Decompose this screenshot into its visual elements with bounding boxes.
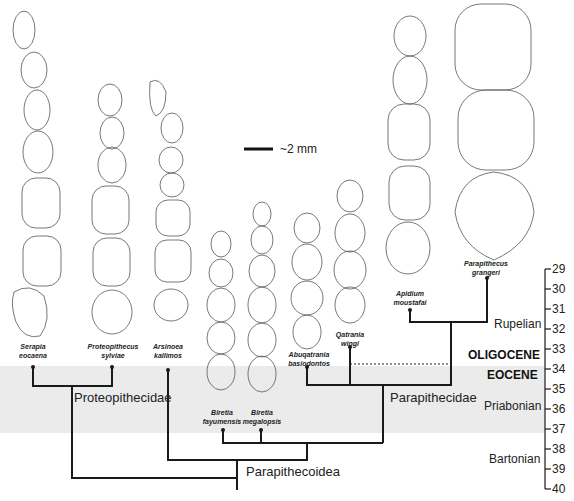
clade-label-parapithecoidea: Parapithecoidea bbox=[246, 464, 340, 479]
tooth-row-parapithecus bbox=[455, 4, 534, 260]
axis-tick-36: 36 bbox=[552, 402, 565, 416]
tooth-row-abuqatrania bbox=[291, 213, 323, 349]
axis-tick-40: 40 bbox=[552, 482, 565, 496]
taxon-label-serapia: Serapia eocaena bbox=[19, 342, 47, 360]
tooth-drawings bbox=[12, 4, 534, 392]
species: wingi bbox=[336, 339, 364, 348]
species: eocaena bbox=[19, 351, 47, 360]
genus: Biretia bbox=[243, 408, 282, 417]
species: moustafai bbox=[393, 298, 426, 307]
time-axis bbox=[545, 269, 551, 489]
scale-bar-label: ~2 mm bbox=[280, 142, 317, 156]
axis-tick-39: 39 bbox=[552, 462, 565, 476]
species: megalopsis bbox=[243, 417, 282, 426]
figure-graphics bbox=[0, 0, 574, 501]
tooth-row-apidium bbox=[386, 16, 430, 274]
genus: Qatrania bbox=[336, 330, 364, 339]
tooth-row-biretia-megalopsis bbox=[248, 202, 276, 392]
species: sylviae bbox=[88, 351, 139, 360]
species: kallimos bbox=[153, 351, 183, 360]
axis-tick-37: 37 bbox=[552, 422, 565, 436]
genus: Abuqatrania bbox=[288, 350, 330, 359]
taxon-label-abuqatrania: Abuqatrania basiodontos bbox=[288, 350, 330, 368]
tooth-row-proteopithecus bbox=[92, 84, 132, 334]
axis-tick-32: 32 bbox=[552, 322, 565, 336]
tooth-row-arsinoea bbox=[150, 80, 191, 321]
genus: Serapia bbox=[19, 342, 47, 351]
genus: Proteopithecus bbox=[88, 342, 139, 351]
tooth-row-serapia bbox=[12, 11, 61, 337]
species: fayumensis bbox=[203, 417, 242, 426]
genus: Apidium bbox=[393, 289, 426, 298]
stage-label-priabonian: Priabonian bbox=[484, 399, 541, 413]
genus: Parapithecus bbox=[464, 259, 508, 268]
tooth-row-qatrania bbox=[334, 180, 366, 323]
genus: Biretia bbox=[203, 408, 242, 417]
axis-tick-30: 30 bbox=[552, 282, 565, 296]
axis-tick-35: 35 bbox=[552, 382, 565, 396]
epoch-label-oligocene: OLIGOCENE bbox=[468, 348, 540, 362]
clade-label-parapithecidae: Parapithecidae bbox=[390, 390, 477, 405]
epoch-label-eocene: EOCENE bbox=[487, 368, 538, 382]
axis-tick-29: 29 bbox=[552, 262, 565, 276]
taxon-label-arsinoea: Arsinoea kallimos bbox=[153, 342, 183, 360]
phylogeny-figure: ~2 mm Serapia eocaena Proteopithecus syl… bbox=[0, 0, 574, 501]
taxon-label-qatrania: Qatrania wingi bbox=[336, 330, 364, 348]
taxon-label-biretia-fayumensis: Biretia fayumensis bbox=[203, 408, 242, 426]
clade-label-proteopithecidae: Proteopithecidae bbox=[74, 390, 172, 405]
axis-tick-33: 33 bbox=[552, 342, 565, 356]
axis-tick-38: 38 bbox=[552, 442, 565, 456]
stage-label-bartonian: Bartonian bbox=[489, 452, 540, 466]
species: basiodontos bbox=[288, 359, 330, 368]
axis-tick-34: 34 bbox=[552, 362, 565, 376]
genus: Arsinoea bbox=[153, 342, 183, 351]
stage-label-rupelian: Rupelian bbox=[494, 317, 541, 331]
taxon-label-proteopithecus: Proteopithecus sylviae bbox=[88, 342, 139, 360]
taxon-label-parapithecus: Parapithecus grangeri bbox=[464, 259, 508, 277]
species: grangeri bbox=[464, 268, 508, 277]
axis-tick-31: 31 bbox=[552, 302, 565, 316]
taxon-label-biretia-megalopsis: Biretia megalopsis bbox=[243, 408, 282, 426]
taxon-label-apidium: Apidium moustafai bbox=[393, 289, 426, 307]
